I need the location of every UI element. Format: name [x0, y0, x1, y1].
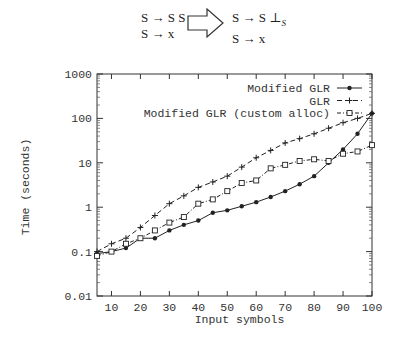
series-modified-glr-custom-alloc: Modified GLR (custom alloc): [95, 107, 375, 258]
legend-label: Modified GLR (custom alloc): [144, 107, 330, 120]
y-tick-label: 1000: [64, 68, 92, 81]
legend-label: Modified GLR: [247, 82, 330, 95]
legend-label: GLR: [309, 95, 330, 108]
y-tick-label: 0.01: [64, 290, 92, 303]
x-tick-label: 10: [105, 301, 119, 314]
y-axis-label: Time (seconds): [19, 139, 32, 236]
runtime-chart: 0.010.11101001000102030405060708090100In…: [0, 0, 401, 345]
y-tick-label: 1: [85, 201, 92, 214]
x-tick-label: 100: [362, 301, 383, 314]
y-tick-label: 100: [71, 112, 92, 125]
x-axis-label: Input symbols: [195, 313, 285, 326]
x-tick-label: 20: [134, 301, 148, 314]
x-tick-label: 80: [307, 301, 321, 314]
y-tick-label: 0.1: [71, 246, 92, 259]
x-tick-label: 90: [336, 301, 350, 314]
x-tick-label: 30: [162, 301, 176, 314]
y-tick-label: 10: [78, 157, 92, 170]
